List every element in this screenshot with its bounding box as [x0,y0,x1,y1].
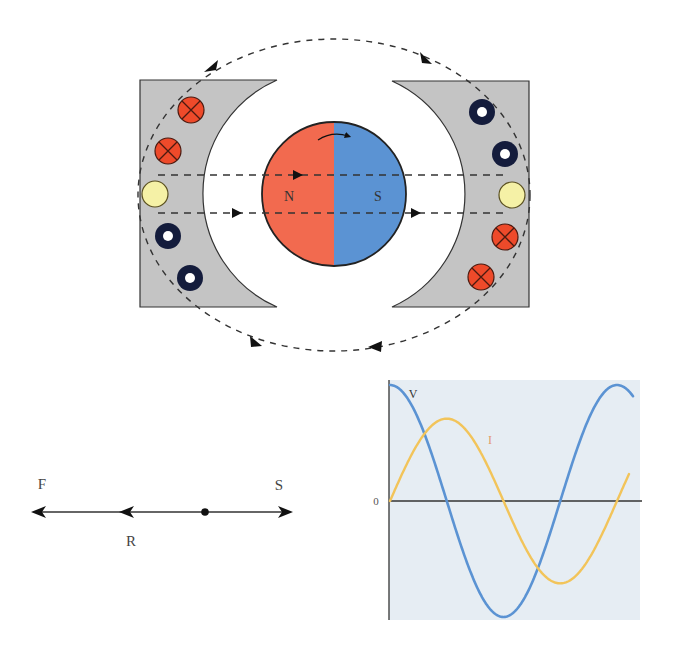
conductor-out-of-page-icon [469,99,495,125]
arrow-icon [411,208,421,218]
conductor-neutral-icon [499,182,525,208]
conductor-out-of-page-icon [492,141,518,167]
rotor-south-half [334,122,406,266]
series-i-label: I [488,433,492,447]
conductor-into-page-icon [492,224,518,250]
conductor-neutral-icon [142,181,168,207]
waveform-chart: 0 V I [373,380,642,620]
label-s: S [275,477,283,493]
rotor-north-half [262,122,334,266]
label-f: F [38,476,46,492]
conductor-into-page-icon [178,97,204,123]
conductor-into-page-icon [155,138,181,164]
figure: N S [0,0,673,647]
arrow-icon [250,336,262,347]
generator-diagram: N S [138,39,530,352]
phasor-diagram: F S R [31,476,293,549]
label-r: R [126,533,136,549]
conductor-out-of-page-icon [155,223,181,249]
rotor-magnet: N S [262,122,406,266]
south-label: S [374,189,382,204]
arrow-icon [368,341,382,352]
north-label: N [284,189,294,204]
origin-dot [201,508,209,516]
chart-background [389,380,640,620]
arrow-icon [420,52,432,64]
conductor-out-of-page-icon [177,265,203,291]
zero-tick-label: 0 [373,495,379,507]
series-v-label: V [409,387,418,401]
conductor-into-page-icon [468,264,494,290]
arrow-icon [232,208,242,218]
